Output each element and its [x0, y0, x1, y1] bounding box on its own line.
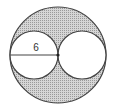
right-inner-circle — [58, 31, 106, 79]
circles-diagram: 6 — [0, 0, 115, 109]
center-point — [56, 53, 59, 56]
segment-label: 6 — [33, 42, 39, 53]
